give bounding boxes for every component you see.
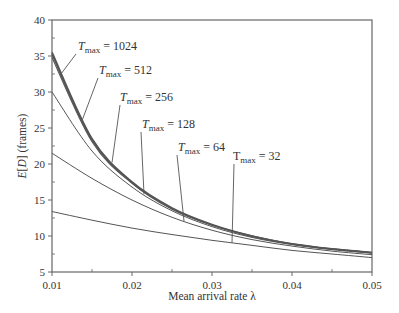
series-line	[52, 92, 372, 253]
annotation-pointer	[112, 105, 120, 163]
series-annotations: Tmax = 1024Tmax = 512Tmax = 256Tmax = 12…	[62, 39, 281, 243]
annotation-label: Tmax = 256	[120, 90, 173, 106]
x-tick-label: 0.04	[282, 279, 302, 291]
y-tick-label: 25	[34, 122, 46, 134]
annotation-label: Tmax = 512	[99, 63, 152, 79]
y-tick-label: 10	[34, 230, 46, 242]
y-tick-label: 5	[40, 266, 46, 278]
annotation-pointer	[62, 54, 76, 73]
x-axis-label: Mean arrival rate λ	[168, 290, 256, 302]
annotation-pointer	[141, 132, 144, 194]
annotation-label: Tmax = 32	[233, 149, 281, 165]
x-tick-label: 0.05	[362, 279, 382, 291]
series-lines	[52, 52, 372, 257]
annotation-label: Tmax = 64	[178, 140, 225, 156]
series-line	[52, 57, 372, 252]
x-tick-label: 0.02	[122, 279, 141, 291]
y-tick-label: 15	[34, 194, 46, 206]
annotation-label: Tmax = 128	[142, 117, 195, 133]
chart: 510152025303540 0.010.020.030.040.05 Tma…	[0, 0, 399, 313]
y-tick-label: 30	[34, 86, 46, 98]
x-tick-label: 0.01	[42, 279, 61, 291]
y-tick-label: 40	[34, 14, 46, 26]
y-tick-label: 20	[34, 158, 46, 170]
annotation-pointer	[82, 78, 98, 120]
annotation-label: Tmax = 1024	[78, 39, 137, 55]
series-line	[52, 153, 372, 255]
y-tick-label: 35	[34, 50, 46, 62]
y-axis-label: E[D] (frames)	[16, 113, 29, 179]
